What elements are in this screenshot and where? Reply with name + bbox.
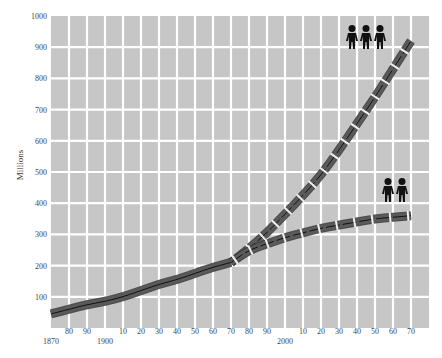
x-tick-label: 90 (83, 327, 91, 336)
x-tick-label: 10 (119, 327, 127, 336)
y-tick-label: 900 (35, 43, 47, 52)
y-tick-label: 500 (35, 168, 47, 177)
x-tick-label: 80 (65, 327, 73, 336)
x-tick-label: 80 (245, 327, 253, 336)
y-tick-label: 600 (35, 137, 47, 146)
x-tick-label: 50 (191, 327, 199, 336)
x-tick-label: 10 (299, 327, 307, 336)
y-tick-label: 800 (35, 74, 47, 83)
x-tick-label: 50 (371, 327, 379, 336)
y-tick-label: 400 (35, 199, 47, 208)
y-axis-ticks: 1002003004005006007008009001000 (31, 12, 47, 302)
x-tick-label: 2000 (277, 337, 293, 346)
x-tick-label: 70 (227, 327, 235, 336)
x-tick-label: 90 (263, 327, 271, 336)
y-tick-label: 1000 (31, 12, 47, 21)
grid (51, 16, 429, 328)
x-tick-label: 30 (155, 327, 163, 336)
y-tick-label: 700 (35, 106, 47, 115)
y-axis-label: Millions (15, 149, 25, 180)
population-chart: 1002003004005006007008009001000 18708090… (0, 0, 442, 358)
x-tick-label: 40 (353, 327, 361, 336)
x-tick-label: 1870 (43, 337, 59, 346)
x-tick-label: 40 (173, 327, 181, 336)
x-tick-label: 20 (137, 327, 145, 336)
y-tick-label: 100 (35, 293, 47, 302)
x-tick-label: 70 (407, 327, 415, 336)
x-tick-label: 30 (335, 327, 343, 336)
y-tick-label: 200 (35, 262, 47, 271)
x-tick-label: 20 (317, 327, 325, 336)
x-tick-label: 1900 (97, 337, 113, 346)
x-tick-label: 60 (389, 327, 397, 336)
y-tick-label: 300 (35, 230, 47, 239)
x-tick-label: 60 (209, 327, 217, 336)
x-axis-ticks: 1870809019001020304050607080902000102030… (43, 327, 415, 346)
